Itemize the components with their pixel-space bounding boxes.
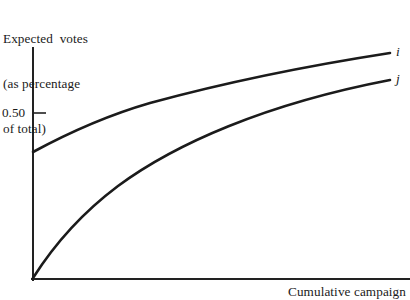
y-axis-title-line-1: Expected votes — [3, 31, 88, 46]
x-axis-title: Cumulative campaign — [288, 284, 406, 299]
curve-label-j: j — [396, 71, 400, 86]
figure-container: Expected votes (as percentage of total) … — [0, 0, 410, 300]
y-axis-title-line-2: (as percentage — [3, 76, 88, 91]
y-axis-title-line-3: of total) — [3, 121, 88, 136]
curve-label-i: i — [396, 44, 400, 59]
y-tick-label-050: 0.50 — [2, 105, 25, 120]
y-axis-title: Expected votes (as percentage of total) — [3, 1, 88, 166]
